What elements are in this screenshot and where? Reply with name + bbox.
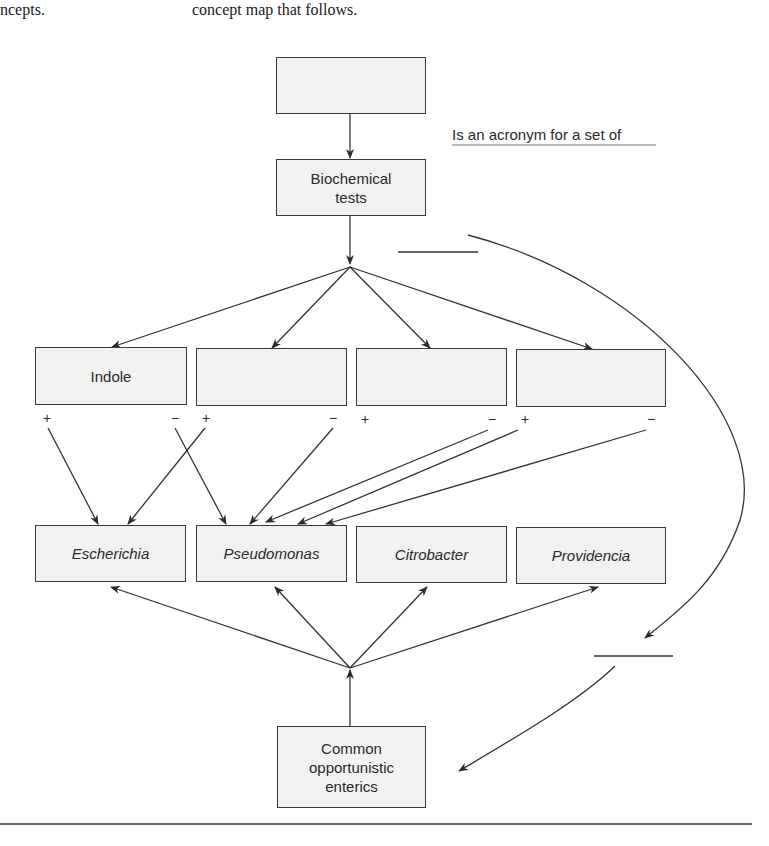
bottom-label-line1: Common — [321, 739, 382, 758]
genus-box-providencia: Providencia — [516, 527, 666, 584]
test-box-blank-3 — [356, 348, 507, 406]
genus-box-citrobacter: Citrobacter — [356, 526, 507, 583]
test4-plus-sign: + — [521, 412, 529, 426]
genus-box-escherichia: Escherichia — [35, 525, 186, 582]
test-box-blank-2 — [196, 348, 347, 406]
linking-phrase: Is an acronym for a set of — [452, 126, 621, 143]
test1-plus-sign: + — [43, 411, 51, 425]
test2-plus-sign: + — [202, 411, 210, 425]
test3-plus-sign: + — [361, 412, 369, 426]
test2-minus-sign: − — [329, 411, 337, 425]
test4-minus-sign: − — [647, 412, 655, 426]
test3-minus-sign: − — [488, 412, 496, 426]
biochemical-tests-box: Biochemical tests — [276, 159, 426, 216]
bottom-label-line2: opportunistic — [309, 758, 394, 777]
test1-minus-sign: − — [171, 411, 179, 425]
blank-concept-box-top — [276, 57, 426, 114]
test-box-blank-4 — [516, 349, 666, 407]
test-box-indole: Indole — [35, 347, 187, 405]
bottom-label-line3: enterics — [325, 777, 378, 796]
genus-box-pseudomonas: Pseudomonas — [196, 525, 347, 582]
common-opportunistic-enterics-box: Common opportunistic enterics — [277, 726, 426, 808]
biochemical-label-line2: tests — [335, 188, 367, 207]
biochemical-label-line1: Biochemical — [311, 169, 392, 188]
